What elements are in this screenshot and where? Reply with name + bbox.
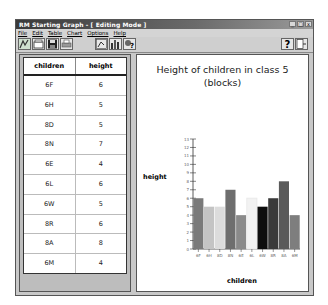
exit-door-icon [296,39,307,49]
menu-table[interactable]: Table [48,29,62,37]
help-button[interactable]: ? [281,38,294,50]
cell-height[interactable]: 4 [76,155,127,174]
cell-child[interactable]: 8A [24,234,76,253]
bar-8r[interactable] [268,198,278,249]
menu-edit[interactable]: Edit [32,29,43,37]
table-row: 6W5 [24,195,126,215]
x-tick-label: 6H [206,253,212,258]
bar-6h[interactable] [204,207,214,249]
cell-height[interactable]: 5 [76,195,127,214]
cell-child[interactable]: 8R [24,215,76,234]
x-tick-label: 6L [249,253,255,258]
menu-help[interactable]: Help [113,29,126,37]
chart-type-icon [96,39,107,49]
menu-bar: File Edit Table Chart Options Help [16,29,313,37]
table-row: 8N7 [24,135,126,155]
table-header: children height [24,58,126,76]
x-tick-label: 8D [217,253,223,258]
cell-child[interactable]: 8D [24,116,76,135]
x-tick-label: 8A [281,253,287,258]
close-button[interactable]: x [305,21,312,27]
minimize-button[interactable]: _ [289,21,296,27]
x-tick-label: 6W [259,253,266,258]
y-tick-label: 13 [184,137,190,142]
bar-6l[interactable] [247,198,257,249]
bar-6m[interactable] [290,215,300,249]
y-tick-label: 11 [184,153,190,158]
chart-type-button[interactable] [95,38,108,50]
exit-button[interactable] [295,38,308,50]
x-tick-label: 8R [271,253,277,258]
table-row: 8D5 [24,116,126,136]
column-header-children[interactable]: children [24,58,76,74]
bar-6w[interactable] [258,207,268,249]
bar-chart-button[interactable] [109,38,122,50]
y-tick-label: 3 [186,221,189,226]
print-icon [61,39,72,49]
data-table-pane: children height 6F66H58D58N76E46L66W58R6… [19,54,131,292]
cell-child[interactable]: 6W [24,195,76,214]
cell-height[interactable]: 5 [76,96,127,115]
cell-child[interactable]: 6M [24,254,76,273]
open-icon [33,39,44,49]
wizard-help-button[interactable]: ? [123,38,136,50]
bar-6f[interactable] [193,198,203,249]
x-axis-label: children [180,277,304,285]
maximize-button[interactable]: □ [297,21,304,27]
y-tick-label: 2 [186,230,189,235]
y-tick-label: 9 [186,170,189,175]
window-controls: _ □ x [289,21,312,27]
x-tick-label: 6M [292,253,299,258]
y-tick-label: 1 [186,238,189,243]
cell-height[interactable]: 7 [76,135,127,154]
cell-child[interactable]: 6F [24,76,76,95]
cell-height[interactable]: 6 [76,76,127,95]
x-tick-label: 6E [239,253,245,258]
bar-chart: 0123456789101112136F6H8D8N6E6L6W8R8A6M [180,131,304,261]
plot-area: 0123456789101112136F6H8D8N6E6L6W8R8A6M [180,131,304,261]
new-graph-button[interactable] [18,38,31,50]
cell-height[interactable]: 6 [76,215,127,234]
table-row: 8A8 [24,234,126,254]
bar-6e[interactable] [236,215,246,249]
table-row: 6L6 [24,175,126,195]
cell-height[interactable]: 5 [76,116,127,135]
table-row: 6E4 [24,155,126,175]
x-tick-label: 8N [228,253,234,258]
svg-text:?: ? [130,42,134,49]
cell-height[interactable]: 6 [76,175,127,194]
new-graph-icon [19,39,30,49]
cell-child[interactable]: 6L [24,175,76,194]
table-row: 6H5 [24,96,126,116]
cell-child[interactable]: 8N [24,135,76,154]
toolbar: ? ? [16,37,313,53]
bar-8a[interactable] [279,181,289,249]
help-question-icon: ? [285,39,291,50]
chart-title: Height of children in class 5 (blocks) [137,63,308,89]
y-tick-label: 4 [186,213,189,218]
save-button[interactable] [46,38,59,50]
table-row: 6M4 [24,254,126,273]
cell-child[interactable]: 6H [24,96,76,115]
print-button[interactable] [60,38,73,50]
title-bar[interactable]: RM Starting Graph - [ Editing Mode ] _ □… [16,20,313,29]
table-row: 8R6 [24,215,126,235]
y-tick-label: 12 [184,145,190,150]
cell-height[interactable]: 8 [76,234,127,253]
y-tick-label: 5 [186,204,189,209]
column-header-height[interactable]: height [76,58,127,74]
x-tick-label: 6F [196,253,202,258]
y-tick-label: 10 [184,162,190,167]
y-tick-label: 8 [186,179,189,184]
table-row: 6F6 [24,76,126,96]
bar-8n[interactable] [225,190,235,249]
y-tick-label: 7 [186,187,189,192]
menu-chart[interactable]: Chart [67,29,82,37]
menu-options[interactable]: Options [87,29,108,37]
open-button[interactable] [32,38,45,50]
cell-height[interactable]: 4 [76,254,127,273]
menu-file[interactable]: File [18,29,27,37]
bar-8d[interactable] [215,207,225,249]
y-tick-label: 0 [186,247,189,252]
cell-child[interactable]: 6E [24,155,76,174]
